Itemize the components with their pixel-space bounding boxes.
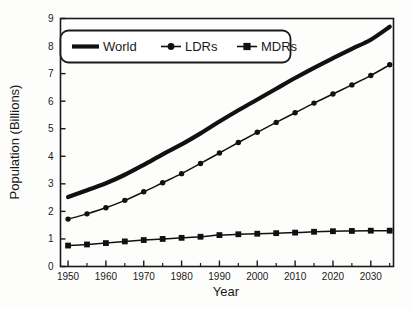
x-tick-label: 2030 bbox=[360, 271, 383, 282]
data-point-marker bbox=[368, 73, 373, 78]
data-point-marker bbox=[254, 231, 260, 237]
population-line-chart: 0123456789 19501960197019801990200020102… bbox=[0, 0, 411, 310]
y-tick-label: 3 bbox=[48, 178, 54, 189]
y-tick-label: 9 bbox=[48, 13, 54, 24]
data-point-marker bbox=[330, 228, 336, 234]
legend-label: World bbox=[103, 39, 137, 54]
legend-label: MDRs bbox=[261, 39, 298, 54]
data-point-marker bbox=[122, 239, 128, 245]
data-point-marker bbox=[368, 228, 374, 234]
data-point-marker bbox=[179, 171, 184, 176]
data-point-marker bbox=[84, 242, 90, 248]
x-axis-tick-labels: 195019601970198019902000201020202030 bbox=[57, 271, 382, 282]
data-point-marker bbox=[273, 120, 278, 125]
y-tick-label: 8 bbox=[48, 41, 54, 52]
data-point-marker bbox=[198, 234, 204, 240]
data-point-marker bbox=[330, 91, 335, 96]
data-point-marker bbox=[236, 140, 241, 145]
chart-figure: 0123456789 19501960197019801990200020102… bbox=[0, 0, 411, 310]
data-point-marker bbox=[160, 236, 166, 242]
data-point-marker bbox=[65, 243, 71, 249]
x-tick-label: 1960 bbox=[95, 271, 118, 282]
data-point-marker bbox=[311, 100, 316, 105]
y-tick-label: 1 bbox=[48, 233, 54, 244]
data-point-marker bbox=[273, 230, 279, 236]
data-point-marker bbox=[103, 205, 108, 210]
data-point-marker bbox=[311, 229, 317, 235]
data-point-marker bbox=[387, 228, 393, 234]
data-point-marker bbox=[141, 189, 146, 194]
data-point-marker bbox=[65, 216, 70, 221]
data-point-marker bbox=[387, 62, 392, 67]
x-tick-label: 1980 bbox=[170, 271, 193, 282]
data-point-marker bbox=[255, 130, 260, 135]
x-tick-label: 1990 bbox=[208, 271, 231, 282]
legend-label: LDRs bbox=[185, 39, 218, 54]
data-point-marker bbox=[141, 237, 147, 243]
legend-circle-marker-icon bbox=[168, 43, 175, 50]
data-point-marker bbox=[198, 161, 203, 166]
data-point-marker bbox=[235, 231, 241, 237]
legend-square-marker-icon bbox=[243, 43, 250, 50]
data-point-marker bbox=[349, 82, 354, 87]
y-tick-label: 4 bbox=[48, 151, 54, 162]
x-tick-label: 2020 bbox=[322, 271, 345, 282]
data-point-marker bbox=[349, 228, 355, 234]
x-tick-label: 1970 bbox=[133, 271, 156, 282]
data-point-marker bbox=[122, 198, 127, 203]
data-point-marker bbox=[160, 180, 165, 185]
x-tick-label: 2010 bbox=[284, 271, 307, 282]
y-tick-label: 2 bbox=[48, 206, 54, 217]
y-tick-label: 5 bbox=[48, 123, 54, 134]
x-axis-title: Year bbox=[213, 284, 240, 299]
data-point-marker bbox=[217, 150, 222, 155]
data-point-marker bbox=[103, 240, 109, 246]
y-tick-label: 7 bbox=[48, 68, 54, 79]
y-tick-label: 0 bbox=[48, 261, 54, 272]
data-point-marker bbox=[84, 211, 89, 216]
legend-items: WorldLDRsMDRs bbox=[72, 39, 298, 54]
data-point-marker bbox=[292, 230, 298, 236]
y-axis-title: Population (Billions) bbox=[7, 85, 22, 200]
x-tick-label: 1950 bbox=[57, 271, 80, 282]
data-point-marker bbox=[217, 232, 223, 238]
y-tick-label: 6 bbox=[48, 96, 54, 107]
data-point-marker bbox=[292, 110, 297, 115]
data-point-marker bbox=[179, 235, 185, 241]
chart-legend: WorldLDRsMDRs bbox=[61, 31, 298, 63]
x-tick-label: 2000 bbox=[246, 271, 269, 282]
